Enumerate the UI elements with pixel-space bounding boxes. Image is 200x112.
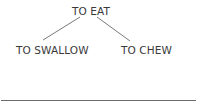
horizontal-divider — [1, 100, 196, 101]
edge-root-to-swallow — [43, 17, 80, 40]
edge-root-to-chew — [97, 17, 130, 41]
child-node-label-swallow: TO SWALLOW — [16, 44, 89, 56]
child-node-label-chew: TO CHEW — [121, 44, 172, 56]
root-node-label: TO EAT — [72, 5, 110, 17]
